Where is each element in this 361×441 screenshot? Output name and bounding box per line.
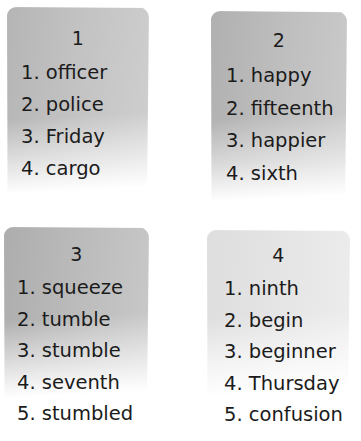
list-item: 3. happier	[226, 131, 347, 151]
list-item: 3. beginner	[224, 342, 350, 362]
card-content: 4 1. ninth 2. begin 3. beginner 4. Thurs…	[207, 230, 350, 437]
card-board: 1 1. officer 2. police 3. Friday 4. carg…	[0, 0, 361, 441]
item-word: happy	[251, 64, 312, 87]
item-word: ninth	[249, 277, 299, 300]
word-list: 1. officer 2. police 3. Friday 4. cargo	[7, 63, 149, 179]
list-item: 4. sixth	[226, 164, 347, 184]
item-word: cargo	[46, 157, 101, 180]
word-card-3[interactable]: 3 1. squeeze 2. tumble 3. stumble 4. sev…	[4, 227, 149, 398]
item-index: 1.	[21, 61, 40, 84]
list-item: 4. seventh	[17, 373, 149, 393]
word-card-1[interactable]: 1 1. officer 2. police 3. Friday 4. carg…	[7, 7, 149, 193]
card-content: 3 1. squeeze 2. tumble 3. stumble 4. sev…	[4, 227, 149, 436]
item-index: 2.	[226, 97, 245, 120]
item-word: beginner	[249, 340, 336, 363]
list-item: 2. begin	[224, 311, 350, 331]
word-list: 1. happy 2. fifteenth 3. happier 4. sixt…	[211, 66, 347, 183]
card-number-label: 2	[211, 31, 347, 50]
list-item: 1. happy	[226, 66, 347, 86]
item-word: tumble	[42, 308, 111, 331]
card-number-label: 4	[207, 246, 350, 265]
item-word: stumble	[42, 339, 121, 362]
item-index: 1.	[224, 277, 243, 300]
item-index: 1.	[17, 276, 36, 299]
item-index: 3.	[226, 129, 245, 152]
item-index: 3.	[17, 339, 36, 362]
list-item: 1. officer	[21, 63, 149, 83]
list-item: 4. Thursday	[224, 374, 350, 394]
list-item: 3. Friday	[21, 127, 149, 147]
item-word: happier	[251, 129, 326, 152]
list-item: 2. tumble	[17, 310, 149, 330]
item-index: 5.	[17, 402, 36, 425]
list-item: 5. confusion	[224, 405, 350, 425]
item-word: officer	[46, 61, 108, 84]
item-word: stumbled	[42, 402, 133, 425]
item-index: 4.	[17, 371, 36, 394]
item-word: fifteenth	[251, 97, 334, 120]
word-card-4[interactable]: 4 1. ninth 2. begin 3. beginner 4. Thurs…	[207, 230, 350, 398]
list-item: 1. ninth	[224, 279, 350, 299]
item-index: 4.	[21, 157, 40, 180]
item-word: sixth	[251, 162, 298, 185]
item-index: 2.	[17, 308, 36, 331]
item-word: confusion	[249, 403, 343, 426]
card-content: 2 1. happy 2. fifteenth 3. happier 4. si…	[211, 11, 347, 196]
item-index: 3.	[21, 125, 40, 148]
item-word: Thursday	[249, 372, 340, 395]
list-item: 1. squeeze	[17, 278, 149, 298]
list-item: 2. police	[21, 95, 149, 115]
list-item: 5. stumbled	[17, 404, 149, 424]
item-index: 4.	[224, 372, 243, 395]
list-item: 3. stumble	[17, 341, 149, 361]
list-item: 4. cargo	[21, 159, 149, 179]
item-word: seventh	[42, 371, 120, 394]
item-index: 1.	[226, 64, 245, 87]
card-content: 1 1. officer 2. police 3. Friday 4. carg…	[7, 7, 149, 191]
card-number-label: 3	[4, 245, 149, 264]
item-index: 5.	[224, 403, 243, 426]
item-word: begin	[249, 309, 304, 332]
item-index: 2.	[224, 309, 243, 332]
item-word: police	[46, 93, 104, 116]
word-card-2[interactable]: 2 1. happy 2. fifteenth 3. happier 4. si…	[211, 11, 347, 201]
item-word: squeeze	[42, 276, 123, 299]
word-list: 1. ninth 2. begin 3. beginner 4. Thursda…	[207, 279, 350, 425]
word-list: 1. squeeze 2. tumble 3. stumble 4. seven…	[4, 278, 149, 424]
item-index: 2.	[21, 93, 40, 116]
card-number-label: 1	[7, 29, 149, 48]
item-word: Friday	[46, 125, 105, 148]
item-index: 4.	[226, 162, 245, 185]
list-item: 2. fifteenth	[226, 99, 347, 119]
item-index: 3.	[224, 340, 243, 363]
